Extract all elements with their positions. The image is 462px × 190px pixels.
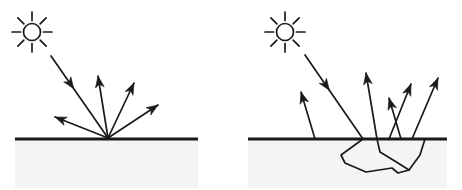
sun-ray [271, 18, 277, 24]
sun-icon [265, 12, 305, 52]
incoming-sun-ray-line [305, 55, 363, 139]
specular-diffuse-surface-reflection [12, 12, 198, 188]
sun-disc [277, 24, 294, 41]
sun-ray [293, 18, 299, 24]
incoming-sun-ray-arrowhead [64, 77, 74, 89]
subsurface-scattering [248, 12, 447, 188]
sun-icon [12, 12, 52, 52]
figure-canvas [0, 0, 462, 190]
outgoing-ray-5-line [412, 78, 438, 139]
sun-ray [18, 40, 24, 46]
outgoing-ray-4-arrowhead [146, 105, 158, 115]
sun-ray [40, 40, 46, 46]
subsurface-fill [15, 140, 198, 188]
sun-ray [271, 40, 277, 46]
incoming-sun-ray-line [51, 56, 108, 138]
incoming-sun-ray-arrowhead [319, 78, 329, 90]
sun-disc [24, 24, 41, 41]
sun-ray [18, 18, 24, 24]
light-scattering-figure [0, 0, 462, 190]
sun-ray [40, 18, 46, 24]
sun-ray [293, 40, 299, 46]
